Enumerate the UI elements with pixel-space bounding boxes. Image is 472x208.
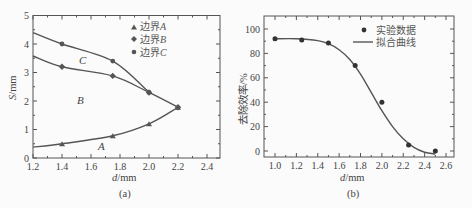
svg-text:2.2: 2.2 <box>172 161 185 172</box>
region-label-a: A <box>97 140 105 152</box>
svg-text:20: 20 <box>250 121 260 132</box>
svg-text:40: 40 <box>250 97 260 108</box>
svg-text:2: 2 <box>24 96 29 107</box>
svg-text:1.4: 1.4 <box>56 161 69 172</box>
svg-text:1.6: 1.6 <box>333 160 346 171</box>
svg-text:2.4: 2.4 <box>418 160 431 171</box>
panel-a: 1.21.41.61.82.02.22.4012345 A B C 边界A 边界… <box>7 10 220 200</box>
svg-text:4: 4 <box>24 39 29 50</box>
legend-label-boundary-c: 边界C <box>140 47 167 58</box>
x-axis-label-b: d/mm <box>340 172 365 183</box>
svg-text:1: 1 <box>24 124 29 135</box>
svg-text:80: 80 <box>250 48 260 59</box>
svg-text:1.4: 1.4 <box>312 160 325 171</box>
legend-a: 边界A 边界B 边界C <box>131 21 167 58</box>
figure: 1.21.41.61.82.02.22.4012345 A B C 边界A 边界… <box>0 0 472 208</box>
svg-text:0: 0 <box>255 146 260 157</box>
experiment-points <box>273 36 438 153</box>
legend-label-boundary-a: 边界A <box>140 21 167 32</box>
panel-b: 1.01.21.41.61.82.02.22.42.6020406080100 … <box>237 16 454 200</box>
svg-text:2.6: 2.6 <box>440 160 453 171</box>
svg-text:2.2: 2.2 <box>397 160 410 171</box>
region-label-b: B <box>77 94 84 106</box>
svg-text:1.0: 1.0 <box>269 160 282 171</box>
plot-frame-a <box>33 16 220 159</box>
legend-label-fit: 拟合曲线 <box>376 36 416 48</box>
legend-label-boundary-b: 边界B <box>140 34 166 45</box>
plot-frame-b <box>264 16 454 157</box>
svg-text:1.8: 1.8 <box>354 160 367 171</box>
svg-text:1.8: 1.8 <box>114 161 127 172</box>
svg-text:60: 60 <box>250 72 260 83</box>
svg-text:100: 100 <box>245 24 260 35</box>
svg-text:0: 0 <box>24 153 29 164</box>
triangle-marker-icon <box>131 25 137 30</box>
fitted-curve <box>275 39 435 154</box>
svg-text:3: 3 <box>24 67 29 78</box>
y-axis-label-a: S/mm <box>7 75 18 100</box>
legend-label-experiment: 实验数据 <box>376 24 416 36</box>
svg-text:1.2: 1.2 <box>290 160 303 171</box>
dot-marker-icon <box>362 28 367 33</box>
x-axis-label-a: d/mm <box>112 172 137 183</box>
legend-b: 实验数据 拟合曲线 <box>353 24 416 48</box>
svg-text:2.0: 2.0 <box>143 161 156 172</box>
circle-marker-icon <box>132 50 137 55</box>
y-axis-label-b: 去除效率/% <box>237 73 249 125</box>
svg-text:5: 5 <box>24 10 29 21</box>
svg-text:2.0: 2.0 <box>376 160 389 171</box>
panel-caption-b: (b) <box>347 188 360 200</box>
svg-text:2.4: 2.4 <box>201 161 214 172</box>
region-label-c: C <box>79 54 87 66</box>
axis-ticks-a: 1.21.41.61.82.02.22.4012345 <box>24 10 220 172</box>
svg-text:1.6: 1.6 <box>85 161 98 172</box>
diamond-marker-icon <box>131 36 137 42</box>
panel-caption-a: (a) <box>119 188 131 200</box>
